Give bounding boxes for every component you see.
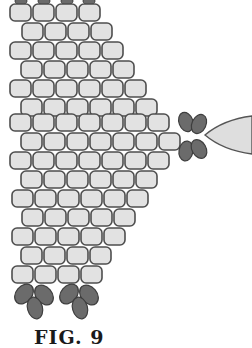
- bead: [58, 266, 79, 283]
- bead: [79, 42, 100, 59]
- bead: [56, 152, 77, 169]
- bead: [91, 23, 112, 40]
- bead: [21, 247, 42, 264]
- bead: [113, 61, 134, 78]
- bead: [33, 114, 54, 131]
- bead: [79, 114, 100, 131]
- bead: [33, 42, 54, 59]
- bead: [113, 171, 134, 188]
- bead: [90, 61, 111, 78]
- bead: [56, 80, 77, 97]
- bead: [22, 23, 43, 40]
- bead: [12, 190, 33, 207]
- bead: [104, 228, 125, 245]
- bead: [136, 133, 157, 150]
- bead: [125, 114, 146, 131]
- bead: [56, 114, 77, 131]
- bead: [44, 171, 65, 188]
- bead: [148, 114, 169, 131]
- bead: [44, 61, 65, 78]
- bead: [35, 190, 56, 207]
- bead: [44, 247, 65, 264]
- bead: [58, 228, 79, 245]
- bead: [90, 247, 111, 264]
- bead: [35, 228, 56, 245]
- bead: [10, 42, 31, 59]
- bead: [102, 80, 123, 97]
- bead: [44, 133, 65, 150]
- bead: [102, 42, 123, 59]
- bead: [56, 4, 77, 21]
- bead: [81, 228, 102, 245]
- bead: [114, 209, 135, 226]
- peyote-bead-grid: [10, 4, 180, 283]
- bead: [125, 80, 146, 97]
- bead: [125, 152, 146, 169]
- bead: [81, 190, 102, 207]
- bead: [10, 80, 31, 97]
- bead: [102, 152, 123, 169]
- bead: [10, 114, 31, 131]
- bead: [21, 171, 42, 188]
- bead: [91, 209, 112, 226]
- bead: [90, 133, 111, 150]
- bead: [22, 209, 43, 226]
- dark-bead: [188, 112, 209, 136]
- bead: [45, 23, 66, 40]
- bead: [33, 4, 54, 21]
- bead: [33, 152, 54, 169]
- bead: [56, 42, 77, 59]
- bead: [81, 266, 102, 283]
- bead: [10, 152, 31, 169]
- bead: [68, 209, 89, 226]
- bead: [21, 133, 42, 150]
- bead: [136, 171, 157, 188]
- bead: [79, 80, 100, 97]
- figure-caption: FIG. 9: [34, 326, 104, 348]
- dagger-bead: [205, 116, 252, 154]
- bead: [79, 4, 100, 21]
- bead: [67, 171, 88, 188]
- bead: [45, 209, 66, 226]
- bead: [33, 80, 54, 97]
- bead: [21, 61, 42, 78]
- bead: [12, 228, 33, 245]
- bead: [68, 23, 89, 40]
- bead: [35, 266, 56, 283]
- bead: [10, 4, 31, 21]
- bead: [58, 190, 79, 207]
- bead: [148, 152, 169, 169]
- bead: [67, 247, 88, 264]
- bead: [102, 114, 123, 131]
- bead: [127, 190, 148, 207]
- bead: [67, 61, 88, 78]
- bead: [159, 133, 180, 150]
- bead: [113, 133, 134, 150]
- bead: [79, 152, 100, 169]
- bead: [90, 171, 111, 188]
- bead: [12, 266, 33, 283]
- bead: [67, 133, 88, 150]
- bead: [104, 190, 125, 207]
